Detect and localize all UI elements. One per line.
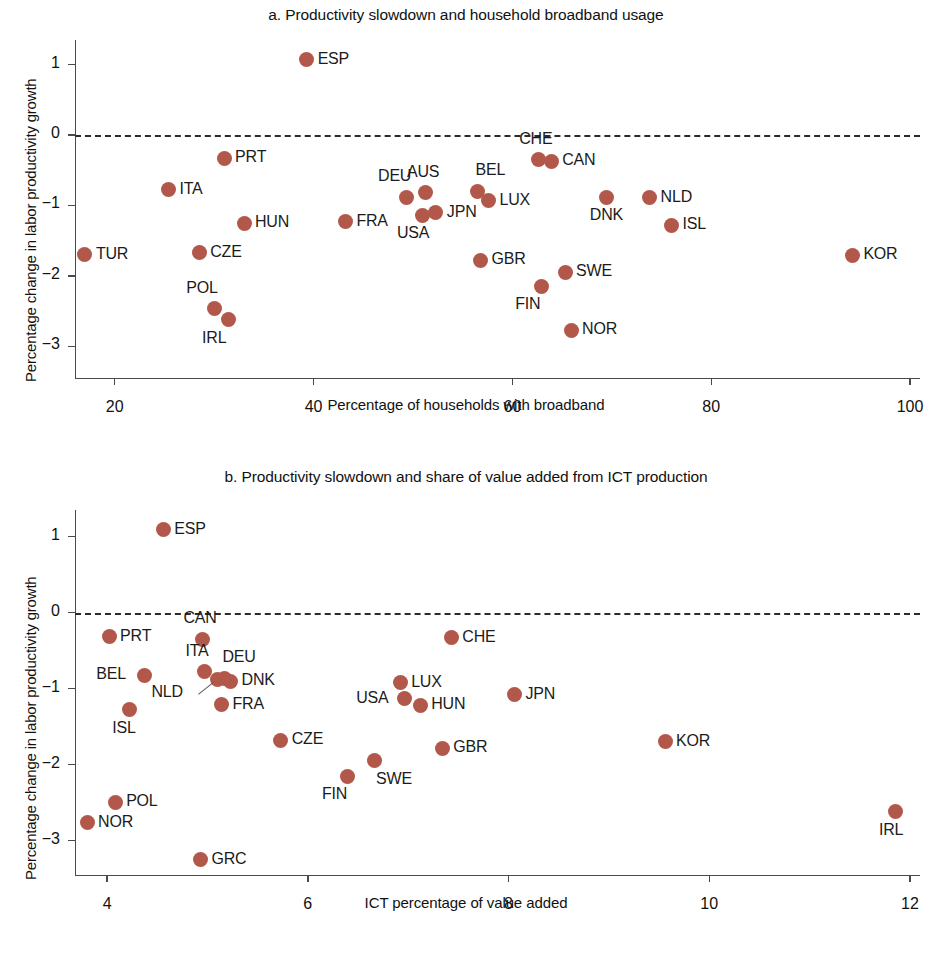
scatter-point-label: USA: [397, 224, 429, 242]
scatter-point-label: POL: [186, 279, 217, 297]
y-axis-line: [75, 510, 76, 875]
scatter-point-label: NOR: [582, 320, 617, 338]
scatter-point[interactable]: [223, 674, 238, 689]
scatter-point-label: NLD: [152, 683, 183, 701]
zero-reference-line: [75, 135, 920, 137]
scatter-point[interactable]: [299, 52, 314, 67]
scatter-point[interactable]: [481, 193, 496, 208]
scatter-point[interactable]: [435, 741, 450, 756]
scatter-point-label: CZE: [292, 730, 323, 748]
scatter-point-label: IRL: [879, 821, 903, 839]
scatter-point[interactable]: [161, 182, 176, 197]
scatter-point[interactable]: [534, 279, 549, 294]
scatter-point-label: USA: [356, 689, 388, 707]
scatter-point-label: SWE: [376, 770, 412, 788]
scatter-point[interactable]: [217, 151, 232, 166]
scatter-point[interactable]: [473, 253, 488, 268]
panel-a-title: a. Productivity slowdown and household b…: [0, 6, 932, 24]
scatter-point-label: AUS: [407, 163, 439, 181]
scatter-point[interactable]: [888, 804, 903, 819]
y-tick: [68, 346, 75, 347]
scatter-point-label: ISL: [682, 215, 705, 233]
scatter-point[interactable]: [664, 218, 679, 233]
scatter-point[interactable]: [558, 265, 573, 280]
scatter-point[interactable]: [397, 691, 412, 706]
scatter-point-label: KOR: [863, 245, 897, 263]
scatter-point[interactable]: [221, 312, 236, 327]
y-axis-line: [75, 40, 76, 378]
y-tick: [68, 205, 75, 206]
x-tick: [307, 875, 308, 882]
scatter-point[interactable]: [599, 190, 614, 205]
scatter-point-label: ITA: [185, 642, 208, 660]
y-tick: [68, 840, 75, 841]
scatter-point-label: ISL: [112, 719, 135, 737]
label-leader-line: [198, 682, 214, 695]
x-tick: [709, 875, 710, 882]
scatter-point-label: IRL: [202, 329, 226, 347]
y-tick: [68, 612, 75, 613]
y-tick: [68, 764, 75, 765]
scatter-point[interactable]: [237, 216, 252, 231]
y-tick-label: 0: [18, 124, 60, 142]
scatter-point[interactable]: [658, 734, 673, 749]
scatter-point-label: ESP: [318, 50, 349, 68]
scatter-point-label: HUN: [431, 695, 465, 713]
y-tick-label: −3: [18, 335, 60, 353]
scatter-point[interactable]: [340, 769, 355, 784]
scatter-point-label: LUX: [411, 673, 442, 691]
y-tick: [68, 536, 75, 537]
scatter-point[interactable]: [193, 852, 208, 867]
panel-a-plot-area: 10−1−2−320406080100TURITACZEPRTPOLIRLHUN…: [75, 40, 920, 378]
panel-b-x-axis-label: ICT percentage of value added: [0, 894, 932, 911]
scatter-point-label: JPN: [526, 685, 556, 703]
scatter-point[interactable]: [207, 301, 222, 316]
scatter-point[interactable]: [108, 795, 123, 810]
y-tick-label: −3: [18, 830, 60, 848]
scatter-point[interactable]: [428, 205, 443, 220]
y-tick-label: 0: [18, 602, 60, 620]
scatter-point-label: FRA: [356, 212, 387, 230]
scatter-point[interactable]: [137, 668, 152, 683]
scatter-point[interactable]: [102, 629, 117, 644]
scatter-point-label: CHE: [519, 130, 552, 148]
y-tick-label: 1: [18, 54, 60, 72]
scatter-point[interactable]: [122, 702, 137, 717]
scatter-point[interactable]: [399, 190, 414, 205]
scatter-point-label: FIN: [322, 785, 347, 803]
panel-b-plot-area: 10−1−2−34681012NORPRTPOLISLBELESPCANGRCI…: [75, 510, 920, 875]
scatter-point-label: GBR: [453, 738, 487, 756]
scatter-point[interactable]: [845, 248, 860, 263]
scatter-point[interactable]: [214, 697, 229, 712]
scatter-point[interactable]: [544, 154, 559, 169]
scatter-point[interactable]: [192, 245, 207, 260]
y-tick: [68, 275, 75, 276]
scatter-point[interactable]: [418, 185, 433, 200]
scatter-point[interactable]: [642, 190, 657, 205]
scatter-point[interactable]: [77, 247, 92, 262]
scatter-point-label: GRC: [211, 850, 246, 868]
scatter-point-label: NOR: [98, 813, 133, 831]
scatter-point-label: CAN: [562, 151, 595, 169]
scatter-point[interactable]: [367, 753, 382, 768]
scatter-point[interactable]: [273, 733, 288, 748]
scatter-point[interactable]: [507, 687, 522, 702]
panel-a-chart: a. Productivity slowdown and household b…: [0, 0, 932, 445]
scatter-point-label: JPN: [447, 203, 477, 221]
scatter-point[interactable]: [413, 698, 428, 713]
y-tick: [68, 64, 75, 65]
y-tick: [68, 134, 75, 135]
panel-b-chart: b. Productivity slowdown and share of va…: [0, 460, 932, 966]
scatter-point[interactable]: [80, 815, 95, 830]
scatter-point[interactable]: [338, 214, 353, 229]
scatter-point-label: ESP: [174, 520, 205, 538]
scatter-point[interactable]: [393, 675, 408, 690]
scatter-point-label: GBR: [492, 250, 526, 268]
x-tick: [512, 378, 513, 385]
y-tick-label: 1: [18, 526, 60, 544]
scatter-point[interactable]: [156, 522, 171, 537]
scatter-point-label: FRA: [233, 695, 264, 713]
scatter-point[interactable]: [444, 630, 459, 645]
scatter-point[interactable]: [564, 323, 579, 338]
scatter-point-label: PRT: [235, 148, 266, 166]
